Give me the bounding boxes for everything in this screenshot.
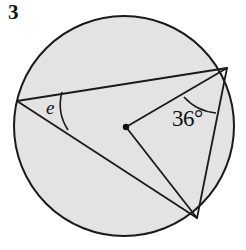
angle-label-36-degrees: 36° bbox=[172, 107, 203, 130]
circle-geometry-figure bbox=[0, 0, 246, 250]
circle-center-dot bbox=[123, 124, 129, 130]
question-number: 3 bbox=[8, 2, 19, 23]
angle-label-e: e bbox=[46, 98, 54, 117]
figure-page: 3 e 36° bbox=[0, 0, 246, 250]
